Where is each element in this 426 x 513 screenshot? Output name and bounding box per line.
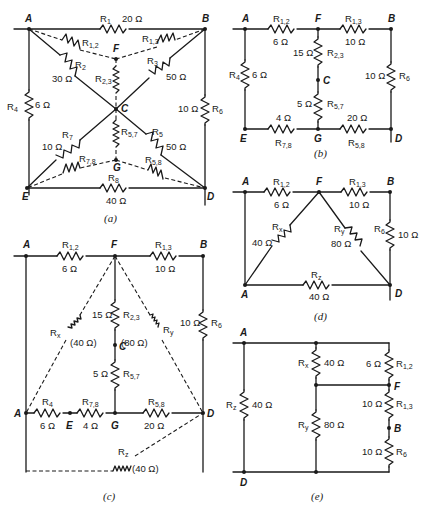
svg-text:R1,2: R1,2 (273, 13, 290, 25)
svg-text:D: D (395, 288, 402, 299)
svg-text:R1,3: R1,3 (155, 239, 172, 251)
svg-text:R6: R6 (399, 70, 410, 82)
svg-text:80 Ω: 80 Ω (324, 419, 344, 430)
svg-text:R1,3: R1,3 (345, 13, 362, 25)
svg-text:B: B (202, 13, 209, 24)
svg-text:R8: R8 (108, 172, 119, 184)
panel-c: R1,2 6 Ω R1,3 10 Ω 10 Ω R6 15 Ω R2,3 5 Ω… (13, 239, 222, 503)
svg-text:Rz: Rz (118, 446, 129, 458)
svg-text:A: A (241, 176, 249, 187)
svg-text:Rx: Rx (272, 221, 283, 233)
svg-text:R6: R6 (211, 317, 222, 329)
caption-a: (a) (104, 212, 117, 225)
svg-text:B: B (387, 176, 394, 187)
svg-text:R1,2: R1,2 (273, 176, 290, 188)
svg-text:Rx: Rx (50, 327, 61, 339)
svg-text:50 Ω: 50 Ω (166, 141, 186, 152)
svg-text:R7,8: R7,8 (275, 137, 292, 149)
svg-text:6 Ω: 6 Ω (35, 99, 50, 110)
svg-text:10 Ω: 10 Ω (362, 446, 382, 457)
svg-text:6 Ω: 6 Ω (274, 199, 289, 210)
svg-text:G: G (111, 420, 119, 431)
svg-text:R2,3: R2,3 (327, 47, 344, 59)
svg-text:F: F (111, 239, 118, 250)
svg-text:Ry: Ry (298, 419, 309, 432)
svg-text:20 Ω: 20 Ω (347, 112, 367, 123)
svg-text:R4: R4 (7, 101, 18, 113)
svg-text:R5,7: R5,7 (121, 126, 138, 138)
svg-text:50 Ω: 50 Ω (166, 71, 186, 82)
panel-d: R1,2 6 Ω R1,3 10 Ω R6 10 Ω Rx 40 Ω Ry 80… (233, 176, 418, 323)
svg-text:Rx: Rx (298, 357, 309, 369)
panel-e: Rz 40 Ω Rx 40 Ω Ry 80 Ω 6 Ω R1,2 10 Ω R1… (226, 327, 413, 503)
svg-text:R5,8: R5,8 (148, 396, 165, 408)
svg-text:40 Ω: 40 Ω (324, 357, 344, 368)
svg-text:15 Ω: 15 Ω (92, 309, 112, 320)
value-R1-a: 20 Ω (122, 13, 142, 24)
svg-text:R5,7: R5,7 (123, 368, 140, 380)
svg-text:R5,8: R5,8 (348, 137, 365, 149)
svg-text:D: D (207, 191, 214, 202)
svg-text:F: F (394, 381, 401, 392)
svg-text:40 Ω: 40 Ω (252, 237, 272, 248)
svg-text:R2,3: R2,3 (95, 73, 112, 85)
svg-text:R1,3: R1,3 (349, 176, 366, 188)
svg-text:C: C (119, 341, 127, 352)
svg-text:(40 Ω): (40 Ω) (70, 337, 97, 348)
svg-text:10 Ω: 10 Ω (398, 229, 418, 240)
svg-text:20 Ω: 20 Ω (144, 420, 164, 431)
svg-text:R7,8: R7,8 (79, 153, 96, 165)
svg-text:10 Ω: 10 Ω (155, 263, 175, 274)
svg-text:5 Ω: 5 Ω (297, 98, 312, 109)
panel-b: R1,2 6 Ω R1,3 10 Ω R4 6 Ω 15 Ω R2,3 5 Ω … (229, 13, 410, 160)
svg-text:40 Ω: 40 Ω (252, 399, 272, 410)
svg-text:10 Ω: 10 Ω (365, 70, 385, 81)
svg-text:15 Ω: 15 Ω (293, 47, 313, 58)
svg-text:40 Ω: 40 Ω (106, 195, 126, 206)
svg-text:B: B (200, 239, 207, 250)
caption-b: (b) (314, 147, 327, 160)
svg-text:A: A (22, 239, 30, 250)
svg-text:R1,3: R1,3 (142, 33, 159, 45)
svg-text:A: A (13, 408, 21, 419)
svg-text:R3: R3 (147, 55, 158, 67)
caption-d: (d) (314, 310, 327, 323)
svg-text:Ry: Ry (163, 324, 174, 337)
svg-text:R2: R2 (75, 59, 86, 71)
svg-text:B: B (388, 13, 395, 24)
svg-text:R5: R5 (152, 126, 163, 138)
svg-text:B: B (394, 423, 401, 434)
svg-text:6 Ω: 6 Ω (62, 263, 77, 274)
svg-text:G: G (314, 133, 322, 144)
circuit-figure: R1 20 Ω R4 6 Ω 10 Ω R6 R8 40 Ω R2 30 Ω R… (0, 0, 426, 513)
svg-text:R4: R4 (229, 69, 240, 81)
caption-e: (e) (311, 490, 324, 503)
svg-text:R5,7: R5,7 (327, 98, 344, 110)
svg-text:R7: R7 (62, 129, 73, 141)
panel-a: R1 20 Ω R4 6 Ω 10 Ω R6 R8 40 Ω R2 30 Ω R… (7, 13, 223, 225)
svg-text:C: C (121, 103, 129, 114)
svg-text:R7,8: R7,8 (82, 396, 99, 408)
svg-text:Rz: Rz (226, 399, 237, 411)
svg-text:10 Ω: 10 Ω (349, 199, 369, 210)
svg-text:A: A (241, 13, 249, 24)
svg-text:(40 Ω): (40 Ω) (132, 463, 159, 474)
svg-text:6 Ω: 6 Ω (273, 36, 288, 47)
svg-text:C: C (323, 75, 331, 86)
svg-text:E: E (240, 133, 247, 144)
svg-text:A: A (24, 13, 32, 24)
label-R1-a: R1 (100, 13, 111, 25)
svg-text:4 Ω: 4 Ω (276, 112, 291, 123)
svg-text:6 Ω: 6 Ω (40, 420, 55, 431)
svg-text:10 Ω: 10 Ω (42, 141, 62, 152)
svg-text:10 Ω: 10 Ω (178, 103, 198, 114)
svg-text:R1,2: R1,2 (396, 358, 413, 370)
svg-text:F: F (113, 43, 120, 54)
svg-text:R2,3: R2,3 (123, 309, 140, 321)
svg-text:A: A (240, 289, 248, 300)
svg-text:F: F (316, 176, 323, 187)
svg-text:5 Ω: 5 Ω (93, 368, 108, 379)
svg-text:R6: R6 (396, 446, 407, 458)
svg-text:R4: R4 (42, 396, 53, 408)
svg-text:R1,3: R1,3 (396, 398, 413, 410)
